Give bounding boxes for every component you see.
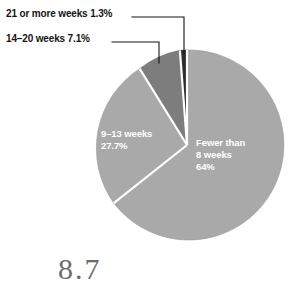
slice-label-fewer-than-8-weeks-name-line1: Fewer than: [196, 137, 245, 149]
slice-label-fewer-than-8-weeks-value: 64%: [196, 161, 245, 173]
slice-label-9-13-weeks-value: 27.7%: [101, 140, 152, 152]
slice-label-fewer-than-8-weeks-name-line2: 8 weeks: [196, 149, 245, 161]
callout-label-14-20-weeks: 14–20 weeks 7.1%: [6, 33, 90, 44]
slice-label-9-13-weeks: 9–13 weeks 27.7%: [101, 128, 152, 152]
callout-label-21-or-more-weeks: 21 or more weeks 1.3%: [6, 8, 112, 19]
slice-label-fewer-than-8-weeks: Fewer than 8 weeks 64%: [196, 137, 245, 173]
slice-label-9-13-weeks-name: 9–13 weeks: [101, 128, 152, 140]
bottom-caption-cropped: 8.7: [58, 252, 102, 283]
